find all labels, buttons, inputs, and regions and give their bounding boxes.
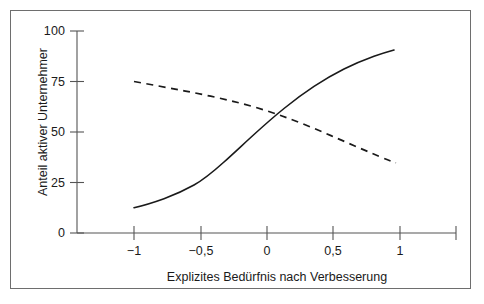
series-line-solid — [134, 50, 394, 208]
x-tick-label-0: 0 — [237, 244, 297, 258]
x-tick-label-0-5: 0,5 — [303, 244, 363, 258]
y-axis-title: Anteil aktiver Unternehmer — [36, 32, 50, 212]
x-tick-label-neg0-5: −0,5 — [171, 244, 231, 258]
chart-figure: 100 75 50 25 0 −1 −0,5 0 0,5 1 Anteil ak… — [0, 0, 484, 304]
x-tick-label-1: 1 — [370, 244, 430, 258]
series-line-dashed — [134, 82, 396, 163]
figure-border: 100 75 50 25 0 −1 −0,5 0 0,5 1 Anteil ak… — [10, 10, 471, 289]
x-tick-label-neg1: −1 — [104, 244, 164, 258]
y-tick-label-0: 0 — [15, 226, 65, 240]
x-axis-title: Explizites Bedürfnis nach Verbesserung — [87, 270, 467, 284]
